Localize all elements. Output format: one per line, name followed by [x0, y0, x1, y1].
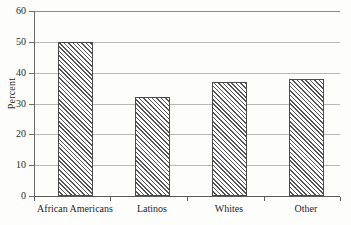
plot-area: [34, 11, 340, 196]
y-tick-label-60: 60: [2, 6, 26, 16]
y-tick-label-10: 10: [2, 160, 26, 170]
x-tick-4: [340, 197, 341, 201]
x-tick-0: [34, 197, 35, 201]
y-tick-50: [29, 42, 34, 43]
y-tick-20: [29, 134, 34, 135]
x-label-latinos: Latinos: [137, 203, 167, 214]
y-tick-30: [29, 104, 34, 105]
bar-african-americans: [58, 42, 93, 196]
y-tick-10: [29, 165, 34, 166]
bar-other: [289, 79, 324, 196]
x-label-whites: Whites: [215, 203, 243, 214]
x-tick-3: [264, 197, 265, 201]
gridline-60: [34, 11, 340, 12]
y-tick-60: [29, 11, 34, 12]
x-label-other: Other: [295, 203, 318, 214]
x-tick-1: [110, 197, 111, 201]
y-tick-40: [29, 73, 34, 74]
x-tick-2: [187, 197, 188, 201]
bar-chart-figure: 60 50 40 30 20 10 0 Percent African Amer…: [0, 0, 351, 225]
y-axis-spine: [34, 11, 35, 197]
y-tick-label-20: 20: [2, 129, 26, 139]
x-label-african-americans: African Americans: [37, 203, 113, 214]
bar-latinos: [135, 97, 170, 196]
y-axis-title: Percent: [6, 64, 17, 124]
y-tick-label-0: 0: [2, 191, 26, 201]
bar-whites: [212, 82, 247, 196]
y-tick-label-50: 50: [2, 37, 26, 47]
